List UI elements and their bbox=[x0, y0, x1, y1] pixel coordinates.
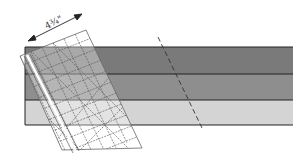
diagram-canvas: 4¾" bbox=[0, 0, 307, 155]
